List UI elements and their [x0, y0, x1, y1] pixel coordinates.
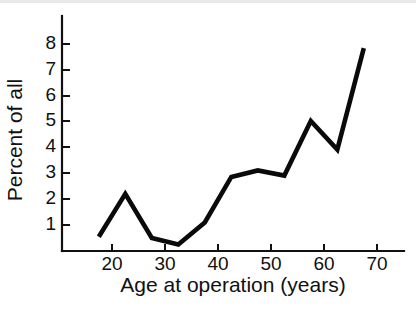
x-tick-label-40: 40	[207, 253, 228, 274]
x-axis-tick-labels: 20 30 40 50 60 70	[101, 253, 387, 274]
x-tick-label-70: 70	[366, 253, 387, 274]
x-tick-label-50: 50	[260, 253, 281, 274]
y-tick-label-2: 2	[45, 187, 56, 208]
y-tick-label-1: 1	[45, 213, 56, 234]
x-tick-label-30: 30	[154, 253, 175, 274]
y-tick-label-8: 8	[45, 32, 56, 53]
y-tick-label-3: 3	[45, 161, 56, 182]
y-tick-label-7: 7	[45, 58, 56, 79]
y-axis-tick-labels: 8 7 6 5 4 3 2 1	[45, 32, 56, 234]
y-tick-label-5: 5	[45, 109, 56, 130]
y-axis-title: Percent of all	[3, 79, 26, 202]
y-tick-label-4: 4	[45, 135, 56, 156]
y-axis-ticks	[62, 44, 70, 225]
y-tick-label-6: 6	[45, 84, 56, 105]
x-tick-label-20: 20	[101, 253, 122, 274]
line-chart-plot: 8 7 6 5 4 3 2 1 20 30 40 50 60 70	[0, 0, 416, 315]
data-series-line	[99, 48, 364, 244]
x-axis-title: Age at operation (years)	[120, 273, 345, 296]
chart-figure: 8 7 6 5 4 3 2 1 20 30 40 50 60 70	[0, 0, 416, 315]
x-tick-label-60: 60	[313, 253, 334, 274]
